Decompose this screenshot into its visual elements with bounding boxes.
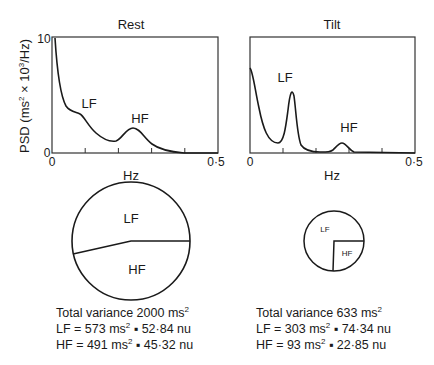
rest-x-axis-label: Hz: [123, 168, 139, 183]
rest-pie-lf-label: LF: [123, 211, 138, 226]
tilt-total-variance: Total variance 633 ms2: [256, 305, 391, 321]
rest-lf-stat: LF = 573 ms2 ▪ 52·84 nu: [56, 321, 193, 337]
tilt-psd-chart: Tilt 0 0·5 Hz LF HF: [247, 17, 423, 183]
tilt-pie-lf-label: LF: [320, 225, 329, 234]
rest-lf-peak-label: LF: [81, 96, 96, 111]
rest-hf-peak-label: HF: [131, 111, 148, 126]
tilt-pie-chart: LF HF: [304, 211, 364, 271]
rest-y-tick-max: 10: [37, 32, 51, 46]
rest-x-tick-min: 0: [49, 155, 56, 169]
tilt-stats: Total variance 633 ms2 LF = 303 ms2 ▪ 74…: [256, 305, 391, 353]
y-axis-label: PSD (ms2 × 103/Hz): [17, 39, 32, 153]
rest-hf-stat: HF = 491 ms2 ▪ 45·32 nu: [56, 337, 193, 353]
rest-psd-curve: [55, 38, 218, 153]
tilt-plot-frame: [250, 37, 415, 153]
rest-plot-frame: [52, 37, 218, 153]
rest-pie-chart: LF HF: [72, 182, 190, 300]
rest-psd-chart: Rest 10 0 0 0·5 Hz LF HF: [37, 17, 225, 183]
rest-stats: Total variance 2000 ms2 LF = 573 ms2 ▪ 5…: [56, 305, 193, 353]
rest-x-tick-max: 0·5: [207, 155, 225, 169]
rest-pie-hf-label: HF: [128, 262, 145, 277]
tilt-title: Tilt: [324, 17, 341, 32]
tilt-hf-peak-label: HF: [340, 120, 357, 135]
tilt-pie-hf-label: HF: [342, 249, 353, 258]
tilt-lf-peak-label: LF: [277, 70, 292, 85]
tilt-psd-curve: [250, 68, 415, 153]
rest-total-variance: Total variance 2000 ms2: [56, 305, 193, 321]
tilt-x-tick-max: 0·5: [405, 155, 423, 169]
rest-title: Rest: [118, 17, 145, 32]
tilt-lf-stat: LF = 303 ms2 ▪ 74·34 nu: [256, 321, 391, 337]
tilt-hf-stat: HF = 93 ms2 ▪ 22·85 nu: [256, 337, 391, 353]
rest-pie-divider: [73, 241, 190, 254]
tilt-x-tick-min: 0: [247, 155, 254, 169]
tilt-x-axis-label: Hz: [324, 168, 340, 183]
